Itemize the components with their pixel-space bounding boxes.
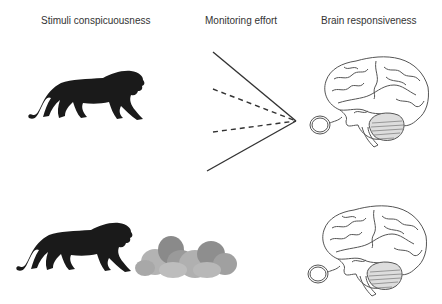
lion-silhouette-top xyxy=(28,71,144,120)
monitoring-effort-lines xyxy=(207,52,296,171)
dashed-line-upper xyxy=(213,89,296,121)
brain-illustration-top xyxy=(310,57,429,147)
solid-line-lower xyxy=(207,121,296,171)
bushes-icon xyxy=(135,236,237,278)
solid-line-upper xyxy=(213,52,296,121)
lion-silhouette-bottom xyxy=(16,223,132,272)
brain-illustration-bottom xyxy=(308,206,427,296)
dashed-line-lower xyxy=(213,121,296,132)
